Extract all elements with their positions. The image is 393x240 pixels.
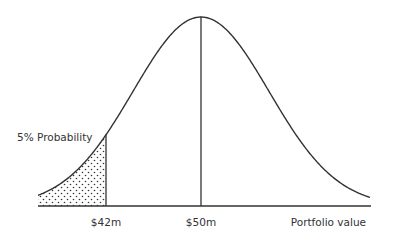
tail-probability-label: 5% Probability xyxy=(17,131,93,143)
mean-tick-label: $50m xyxy=(186,216,216,228)
var-distribution-chart: 5% Probability $42m $50m Portfolio value xyxy=(0,0,393,240)
shaded-tail-region xyxy=(38,135,106,206)
cutoff-tick-label: $42m xyxy=(91,216,121,228)
x-axis-label: Portfolio value xyxy=(291,216,366,228)
